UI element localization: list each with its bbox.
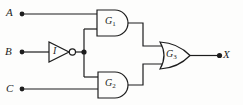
input-c-label: C <box>6 83 13 94</box>
wire-g2-to-g3 <box>128 64 164 85</box>
junction-dot <box>81 49 86 54</box>
not-gate-triangle <box>49 42 69 62</box>
input-a-label: A <box>6 7 13 18</box>
logic-circuit-figure: A B C X I G1 G2 G3 <box>0 0 243 105</box>
input-b-label: B <box>5 46 12 57</box>
gate-g3-label: G3 <box>166 49 177 61</box>
inverter-label: I <box>53 46 56 56</box>
not-gate-bubble-icon <box>69 49 75 55</box>
wire-g1-to-g3 <box>128 23 164 46</box>
output-x-label: X <box>223 49 230 60</box>
gate-g1-label: G1 <box>105 16 116 28</box>
input-c-dot <box>20 87 25 92</box>
circuit-drawing <box>0 0 243 105</box>
gate-g2-label: G2 <box>105 78 116 90</box>
input-a-dot <box>20 12 25 17</box>
output-x-dot <box>217 53 222 58</box>
input-b-dot <box>20 50 25 55</box>
